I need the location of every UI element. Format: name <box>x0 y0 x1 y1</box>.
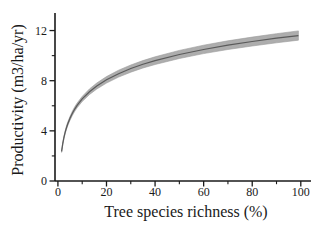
x-tick-label: 40 <box>149 185 161 199</box>
x-axis-title: Tree species richness (%) <box>104 203 267 221</box>
y-axis-title: Productivity (m3/ha/yr) <box>9 24 27 176</box>
x-tick-label: 20 <box>100 185 112 199</box>
productivity-vs-richness-chart: 02040608010004812 Tree species richness … <box>0 0 329 239</box>
x-tick-label: 100 <box>292 185 310 199</box>
y-tick-label: 8 <box>41 74 47 88</box>
x-tick-label: 0 <box>55 185 61 199</box>
plot-area: 02040608010004812 <box>35 13 311 199</box>
confidence-band <box>62 31 299 152</box>
figure-canvas: 02040608010004812 Tree species richness … <box>0 0 329 239</box>
y-tick-label: 0 <box>41 174 47 188</box>
x-tick-label: 60 <box>198 185 210 199</box>
y-tick-label: 4 <box>41 124 47 138</box>
y-tick-label: 12 <box>35 24 47 38</box>
x-tick-label: 80 <box>246 185 258 199</box>
